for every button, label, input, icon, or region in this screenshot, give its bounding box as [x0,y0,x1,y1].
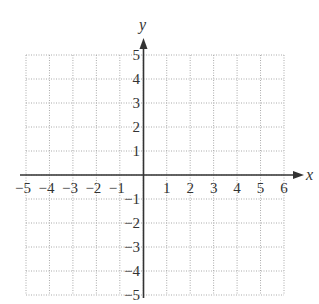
x-tick-label: 5 [257,180,265,196]
y-axis-arrow-icon [140,38,148,49]
coordinate-plane: x y −5−4−3−2−1123456 54321−1−2−3−4−5 [0,0,319,304]
y-tick-label: −4 [124,263,140,279]
y-tick-label: −2 [124,215,140,231]
y-tick-label: 5 [133,47,141,63]
x-tick-label: −3 [62,180,78,196]
x-tick-label: 4 [233,180,241,196]
y-tick-label: 4 [133,71,141,87]
x-tick-label: −1 [109,180,125,196]
x-tick-label: 3 [210,180,218,196]
y-tick-label: −3 [124,239,140,255]
y-tick-label: −1 [124,191,140,207]
y-tick-label: 1 [133,143,141,159]
x-tick-label: 1 [163,180,171,196]
y-tick-label: 2 [133,119,141,135]
x-tick-labels: −5−4−3−2−1123456 [15,180,288,196]
x-axis-arrow-icon [293,171,304,179]
x-tick-label: −5 [15,180,31,196]
x-tick-label: −2 [85,180,101,196]
y-axis-label: y [137,16,147,34]
axes [20,38,304,298]
x-tick-label: −4 [38,180,54,196]
y-tick-label: 3 [133,95,141,111]
y-tick-label: −5 [124,287,140,303]
x-tick-label: 2 [186,180,194,196]
x-tick-label: 6 [280,180,288,196]
x-axis-label: x [305,166,313,183]
